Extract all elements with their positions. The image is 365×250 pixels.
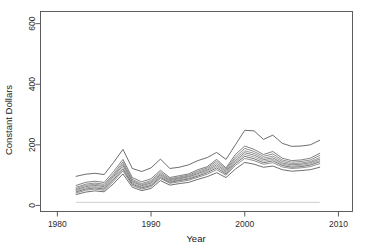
y-tick-label: 200 [28, 137, 38, 151]
x-tick-label: 1980 [48, 219, 67, 229]
x-tick-label: 2010 [329, 219, 348, 229]
x-tick-label: 2000 [235, 219, 254, 229]
y-tick-label: 600 [28, 16, 38, 30]
y-axis-label: Constant Dollars [3, 85, 14, 155]
x-tick-label: 1990 [142, 219, 161, 229]
y-tick-label: 400 [28, 77, 38, 91]
y-tick-label: 0 [28, 203, 38, 208]
x-axis-label: Year [186, 233, 205, 244]
chart-figure: 0200400600 1980199020002010 Year Constan… [0, 0, 365, 250]
chart-background [0, 0, 365, 250]
line-chart: 0200400600 1980199020002010 Year Constan… [0, 0, 365, 250]
